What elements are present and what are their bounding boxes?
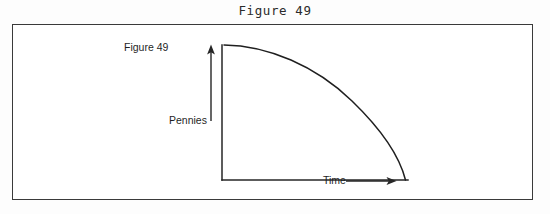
page-title: Figure 49 [0,3,550,18]
x-axis-label: Time [323,175,346,186]
figure-page: Figure 49 Figure 49 Pennies Time [0,0,550,214]
figure-frame [12,24,533,200]
y-axis-label: Pennies [169,115,207,126]
figure-inner-caption: Figure 49 [124,42,168,53]
